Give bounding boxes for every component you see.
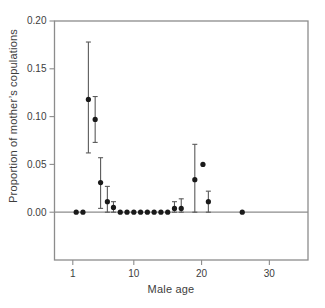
- data-point: [152, 210, 157, 215]
- data-point: [105, 199, 110, 204]
- y-tick-label: 0.15: [27, 63, 47, 74]
- data-point: [179, 206, 184, 211]
- data-point: [124, 210, 129, 215]
- data-point: [111, 205, 116, 210]
- data-point: [200, 162, 205, 167]
- data-point: [80, 210, 85, 215]
- data-point: [118, 210, 123, 215]
- data-point: [131, 210, 136, 215]
- scatter-plot: 0.000.050.100.150.201102030: [0, 0, 325, 308]
- data-point: [158, 210, 163, 215]
- data-point: [192, 177, 197, 182]
- plot-frame: [55, 21, 309, 260]
- data-point: [165, 210, 170, 215]
- data-point: [172, 206, 177, 211]
- data-point: [138, 210, 143, 215]
- y-tick-label: 0.05: [27, 159, 47, 170]
- data-point: [86, 97, 91, 102]
- figure: 0.000.050.100.150.201102030 Proportion o…: [0, 0, 325, 308]
- x-tick-label: 20: [196, 268, 208, 279]
- x-axis-title: Male age: [148, 283, 195, 295]
- x-tick-label: 30: [264, 268, 276, 279]
- data-point: [74, 210, 79, 215]
- y-tick-label: 0.10: [27, 111, 47, 122]
- y-tick-label: 0.00: [27, 207, 47, 218]
- x-tick-label: 10: [128, 268, 140, 279]
- data-point: [206, 199, 211, 204]
- data-point: [93, 117, 98, 122]
- data-point: [98, 180, 103, 185]
- x-tick-label: 1: [70, 268, 76, 279]
- y-axis-title: Proportion of mother’s copulations: [7, 29, 19, 203]
- data-point: [145, 210, 150, 215]
- data-point: [240, 210, 245, 215]
- y-tick-label: 0.20: [27, 15, 47, 26]
